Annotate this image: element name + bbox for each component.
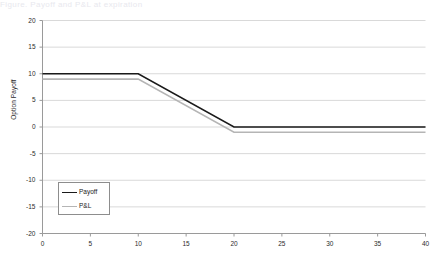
legend-item-pl: P&L [62, 201, 91, 211]
x-tick-label: 25 [270, 240, 294, 247]
y-tick-label: 15 [14, 43, 36, 50]
series-lines [43, 74, 426, 133]
legend-swatch-payoff [62, 192, 77, 193]
x-tick-label: 5 [78, 240, 102, 247]
y-tick-label: -15 [14, 203, 36, 210]
plot-canvas [0, 0, 435, 253]
x-tick-label: 0 [31, 240, 55, 247]
x-tick-label: 35 [366, 240, 390, 247]
x-tick-label: 40 [414, 240, 435, 247]
series-line-pl [43, 79, 426, 132]
chart-legend: Payoff P&L [58, 182, 110, 215]
x-tick-label: 15 [174, 240, 198, 247]
chart-container: Figure. Payoff and P&L at expiration Opt… [0, 0, 435, 253]
y-tick-label: 20 [14, 17, 36, 24]
x-tick-label: 10 [126, 240, 150, 247]
y-tick-label: -20 [14, 230, 36, 237]
legend-swatch-pl [62, 206, 77, 207]
y-tick-label: 10 [14, 70, 36, 77]
y-tick-label: 5 [14, 96, 36, 103]
x-tick-label: 20 [222, 240, 246, 247]
y-tick-label: -10 [14, 176, 36, 183]
x-tick-label: 30 [318, 240, 342, 247]
legend-label-pl: P&L [79, 202, 91, 210]
y-tick-label: 0 [14, 123, 36, 130]
legend-label-payoff: Payoff [79, 188, 97, 196]
legend-item-payoff: Payoff [62, 187, 97, 197]
y-tick-label: -5 [14, 150, 36, 157]
